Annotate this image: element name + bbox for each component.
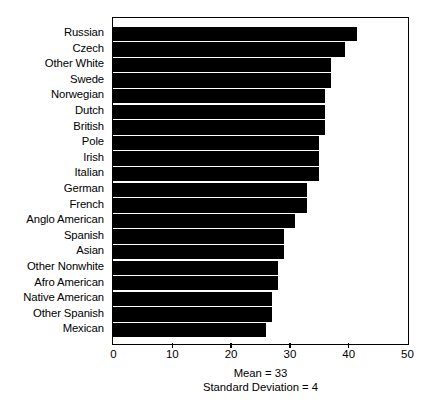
bar [113,183,307,197]
bar [113,276,278,290]
category-label: Other White [0,56,108,72]
category-label: British [0,119,108,135]
bar [113,105,325,119]
plot-area [112,17,409,345]
bar-row [113,166,408,182]
category-label: Irish [0,150,108,166]
bar-row [113,260,408,276]
bar-row [113,104,408,120]
bar [113,229,284,243]
bar-row [113,244,408,260]
chart-caption: Mean = 33 Standard Deviation = 4 [112,367,409,394]
bar-row [113,135,408,151]
caption-standard-deviation: Standard Deviation = 4 [112,381,409,395]
bar-row [113,229,408,245]
bar [113,27,357,41]
category-label: Asian [0,243,108,259]
bar [113,214,295,228]
bar-row [113,213,408,229]
bar-row [113,42,408,58]
bar [113,245,284,259]
horizontal-bar-chart: RussianCzechOther WhiteSwedeNorwegianDut… [0,0,426,405]
bar [113,307,272,321]
x-tick-label: 40 [342,348,355,360]
bar [113,323,266,337]
category-label: French [0,197,108,213]
bar-row [113,291,408,307]
x-axis-tick-labels: 01020304050 [112,348,409,364]
category-axis-labels: RussianCzechOther WhiteSwedeNorwegianDut… [0,25,108,337]
bar-row [113,151,408,167]
bar-row [113,120,408,136]
category-label: Dutch [0,103,108,119]
category-label: Spanish [0,228,108,244]
bar [113,120,325,134]
bar [113,89,325,103]
category-label: Afro American [0,275,108,291]
category-label: Russian [0,25,108,41]
bar-row [113,276,408,292]
category-label: Swede [0,72,108,88]
bar [113,42,345,56]
bar-row [113,322,408,338]
bar-row [113,88,408,104]
category-label: German [0,181,108,197]
bars-container [113,26,408,338]
bar [113,151,319,165]
category-label: Norwegian [0,87,108,103]
bar-row [113,198,408,214]
x-tick-label: 20 [225,348,238,360]
category-label: Other Nonwhite [0,259,108,275]
bar [113,198,307,212]
bar-row [113,26,408,42]
bar-row [113,57,408,73]
bar-row [113,307,408,323]
bar [113,58,331,72]
bar-row [113,182,408,198]
category-label: Native American [0,290,108,306]
x-tick-label: 0 [110,348,116,360]
bar [113,167,319,181]
x-tick-label: 50 [401,348,414,360]
x-tick-label: 10 [166,348,179,360]
bar-row [113,73,408,89]
category-label: Mexican [0,321,108,337]
bar [113,261,278,275]
x-tick-label: 30 [283,348,296,360]
category-label: Anglo American [0,212,108,228]
bar [113,292,272,306]
category-label: Italian [0,165,108,181]
bar [113,73,331,87]
category-label: Other Spanish [0,306,108,322]
category-label: Pole [0,134,108,150]
category-label: Czech [0,41,108,57]
bar [113,136,319,150]
caption-mean: Mean = 33 [112,367,409,381]
